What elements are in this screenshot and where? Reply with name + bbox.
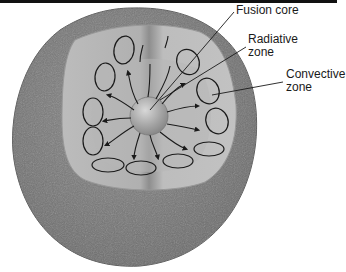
label-convective-line2: zone — [286, 81, 345, 94]
label-convective-zone: Convective zone — [286, 68, 345, 94]
label-fusion-core-line1: Fusion core — [236, 4, 299, 17]
fusion-core-sphere — [130, 97, 168, 135]
label-fusion-core: Fusion core — [236, 4, 299, 17]
label-radiative-zone: Radiative zone — [248, 33, 298, 59]
label-radiative-line2: zone — [248, 46, 298, 59]
